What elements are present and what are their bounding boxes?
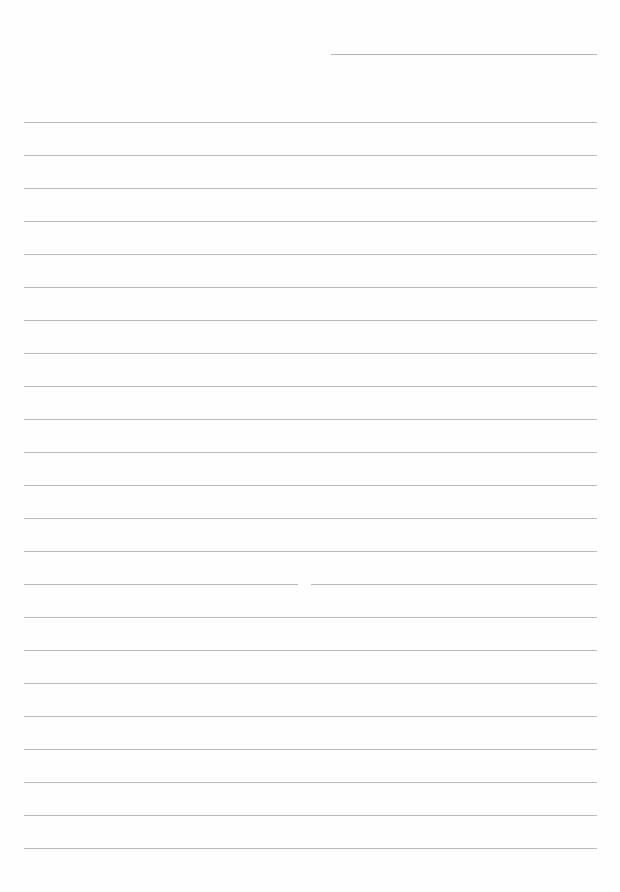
ruled-line [24, 188, 597, 189]
ruled-line [24, 320, 597, 321]
ruled-line [24, 254, 597, 255]
ruled-line [24, 518, 597, 519]
ruled-line [24, 452, 597, 453]
ruled-line [24, 353, 597, 354]
ruled-line [24, 782, 597, 783]
ruled-line [24, 683, 597, 684]
ruled-line [24, 485, 597, 486]
lined-paper-page [0, 0, 620, 892]
ruled-line [24, 155, 597, 156]
line-gap [298, 583, 311, 586]
ruled-line [24, 815, 597, 816]
ruled-line [24, 287, 597, 288]
ruled-line [24, 650, 597, 651]
ruled-line [24, 716, 597, 717]
header-line [331, 54, 597, 55]
ruled-line [24, 551, 597, 552]
ruled-line [24, 122, 597, 123]
ruled-line [24, 221, 597, 222]
ruled-line [24, 848, 597, 849]
ruled-line [24, 617, 597, 618]
ruled-line [24, 419, 597, 420]
ruled-line [24, 386, 597, 387]
ruled-line [24, 749, 597, 750]
